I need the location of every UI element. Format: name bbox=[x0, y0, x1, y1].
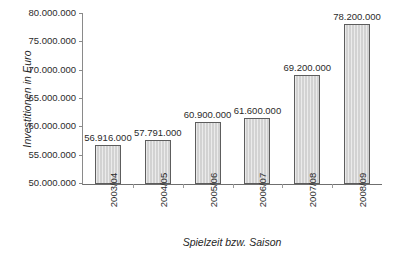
bar-value-label: 69.200.000 bbox=[283, 62, 331, 73]
bar-value-label: 56.916.000 bbox=[84, 132, 132, 143]
bar-group: 69.200.0002007/08 bbox=[282, 14, 332, 184]
plot-area: 50.000.00055.000.00060.000.00065.000.000… bbox=[82, 14, 382, 185]
bar-chart: Investitionen in Euro 50.000.00055.000.0… bbox=[0, 0, 403, 257]
x-axis-category-label: 2006/07 bbox=[257, 173, 268, 207]
bar-group: 57.791.0002004/05 bbox=[133, 14, 183, 184]
x-axis-category-label: 2003/04 bbox=[108, 173, 119, 207]
bar bbox=[294, 75, 320, 184]
bar-value-label: 60.900.000 bbox=[184, 109, 232, 120]
bar-group: 56.916.0002003/04 bbox=[83, 14, 133, 184]
x-axis-tick-mark bbox=[183, 184, 184, 188]
x-axis-tick-mark bbox=[332, 184, 333, 188]
x-axis-tick-mark bbox=[133, 184, 134, 188]
y-axis-tick-label: 80.000.000 bbox=[28, 7, 76, 18]
y-axis-tick-label: 75.000.000 bbox=[28, 35, 76, 46]
x-axis-category-label: 2005/06 bbox=[208, 173, 219, 207]
x-axis-category-label: 2004/05 bbox=[158, 173, 169, 207]
bar-value-label: 78.200.000 bbox=[333, 11, 381, 22]
bar-value-label: 61.600.000 bbox=[234, 105, 282, 116]
y-axis-tick-label: 65.000.000 bbox=[28, 92, 76, 103]
y-axis-tick-label: 70.000.000 bbox=[28, 64, 76, 75]
bar-group: 60.900.0002005/06 bbox=[183, 14, 233, 184]
bar-value-label: 57.791.000 bbox=[134, 127, 182, 138]
bar-group: 61.600.0002006/07 bbox=[233, 14, 283, 184]
y-axis-tick-label: 55.000.000 bbox=[28, 149, 76, 160]
x-axis-tick-mark bbox=[233, 184, 234, 188]
x-axis-category-label: 2008/09 bbox=[357, 173, 368, 207]
y-axis-tick-label: 60.000.000 bbox=[28, 120, 76, 131]
y-axis-tick-label: 50.000.000 bbox=[28, 177, 76, 188]
x-axis-tick-mark bbox=[282, 184, 283, 188]
bars-layer: 56.916.0002003/0457.791.0002004/0560.900… bbox=[83, 14, 382, 184]
x-axis-category-label: 2007/08 bbox=[307, 173, 318, 207]
bar bbox=[344, 24, 370, 184]
x-axis-title: Spielzeit bzw. Saison bbox=[82, 236, 382, 248]
bar-group: 78.200.0002008/09 bbox=[332, 14, 382, 184]
